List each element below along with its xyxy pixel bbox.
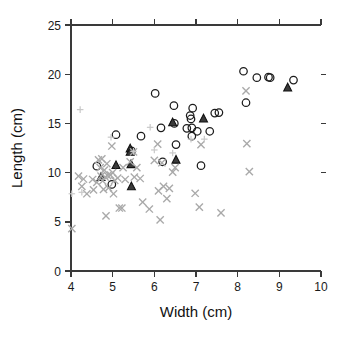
marker-cross [122, 176, 129, 183]
marker-triangle [172, 156, 180, 164]
scatter-plot-figure: 051015202545678910 Width (cm)Length (cm) [0, 0, 346, 340]
marker-cross [102, 212, 109, 219]
marker-cross [89, 176, 96, 183]
marker-cross [119, 164, 126, 171]
marker-circle [242, 99, 249, 106]
series-filled-triangle-group [97, 83, 292, 190]
marker-circle [290, 76, 297, 83]
y-tick-label-10: 10 [48, 166, 62, 180]
marker-cross [131, 173, 138, 180]
x-tick-label-8: 8 [234, 280, 241, 294]
marker-circle [194, 128, 201, 135]
marker-plus [201, 136, 208, 143]
marker-cross [242, 87, 249, 94]
marker-cross [83, 190, 90, 197]
marker-cross [243, 140, 250, 147]
marker-cross [246, 168, 253, 175]
y-tick-label-15: 15 [48, 117, 62, 131]
marker-circle [197, 162, 204, 169]
series-gray-cross-group [68, 87, 253, 232]
y-axis-title: Length (cm) [8, 108, 25, 188]
marker-cross [137, 175, 144, 182]
marker-plus [108, 134, 115, 141]
marker-cross [154, 140, 161, 147]
marker-cross [110, 190, 117, 197]
marker-circle [137, 132, 144, 139]
marker-circle [151, 90, 158, 97]
x-axis-title: Width (cm) [160, 303, 233, 320]
axes-layer [71, 25, 321, 271]
data-points-layer [68, 68, 297, 233]
marker-triangle [200, 114, 208, 122]
marker-triangle [112, 161, 120, 169]
marker-cross [157, 216, 164, 223]
marker-circle [189, 104, 196, 111]
marker-cross [151, 157, 158, 164]
marker-cross [197, 141, 204, 148]
x-tick-label-5: 5 [109, 280, 116, 294]
marker-cross [192, 190, 199, 197]
marker-cross [139, 199, 146, 206]
marker-plus [147, 124, 154, 131]
x-tick-label-9: 9 [276, 280, 283, 294]
series-open-circle-group [93, 68, 297, 189]
marker-cross [217, 209, 224, 216]
marker-cross [90, 186, 97, 193]
marker-triangle [284, 83, 292, 91]
marker-plus [77, 106, 84, 113]
tick-marks-layer [65, 19, 326, 277]
marker-cross [103, 160, 110, 167]
marker-plus [79, 189, 86, 196]
marker-circle [170, 102, 177, 109]
marker-circle [206, 128, 213, 135]
marker-cross [160, 183, 167, 190]
marker-circle [157, 124, 164, 131]
x-tick-label-6: 6 [151, 280, 158, 294]
marker-cross [108, 142, 115, 149]
marker-circle [240, 68, 247, 75]
y-tick-label-20: 20 [48, 68, 62, 82]
x-tick-label-10: 10 [314, 280, 328, 294]
marker-cross [114, 174, 121, 181]
marker-cross [100, 186, 107, 193]
plot-canvas: 051015202545678910 Width (cm)Length (cm) [0, 0, 346, 340]
marker-circle [188, 124, 195, 131]
x-tick-label-4: 4 [68, 280, 75, 294]
x-tick-label-7: 7 [193, 280, 200, 294]
marker-cross [166, 185, 173, 192]
marker-cross [68, 225, 75, 232]
y-tick-label-25: 25 [48, 19, 62, 33]
marker-cross [78, 183, 85, 190]
marker-cross [196, 203, 203, 210]
marker-cross [163, 195, 170, 202]
marker-circle [253, 74, 260, 81]
y-tick-label-5: 5 [54, 215, 61, 229]
tick-labels-layer: 051015202545678910 [48, 19, 328, 295]
y-tick-label-0: 0 [54, 265, 61, 279]
marker-triangle [127, 182, 135, 190]
marker-circle [172, 141, 179, 148]
marker-plus [69, 190, 76, 197]
marker-cross [146, 205, 153, 212]
marker-plus [169, 150, 176, 157]
marker-plus [151, 147, 158, 154]
